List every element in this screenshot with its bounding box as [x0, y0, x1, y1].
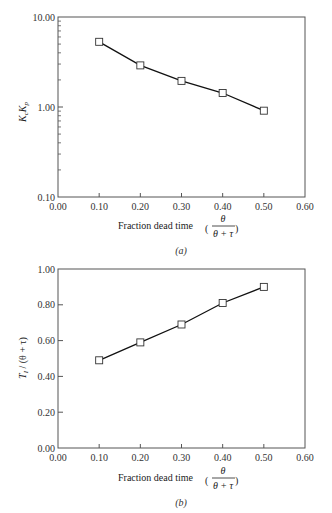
x-axis-label: Fraction dead time [118, 472, 194, 483]
data-point-marker [260, 107, 267, 114]
x-tick-label: 0.40 [214, 452, 232, 463]
svg-text:(: ( [205, 475, 209, 487]
data-series [96, 283, 268, 363]
x-tick-label: 0.50 [255, 452, 273, 463]
x-tick-label: 0.60 [296, 452, 314, 463]
series-line [99, 42, 264, 111]
plot-frame [58, 17, 305, 197]
y-ticks: 0.000.200.400.600.801.00 [38, 264, 64, 454]
x-tick-label: 0.00 [49, 201, 67, 212]
data-point-marker [137, 62, 144, 69]
svg-text:θ: θ [221, 213, 226, 224]
data-point-marker [96, 357, 103, 364]
y-tick-label: 0.60 [38, 335, 56, 346]
x-tick-label: 0.40 [214, 201, 232, 212]
svg-text:θ: θ [221, 465, 226, 476]
svg-text:(: ( [205, 223, 209, 235]
plot-frame [58, 269, 305, 448]
x-tick-label: 0.20 [132, 201, 150, 212]
chart-panel-a: 0.101.0010.00 0.000.100.200.300.400.500.… [17, 12, 314, 258]
chart-panel-b: 0.000.200.400.600.801.00 0.000.100.200.3… [17, 264, 314, 510]
data-point-marker [178, 77, 185, 84]
data-point-marker [137, 339, 144, 346]
y-tick-label: 0.40 [38, 371, 56, 382]
x-ticks: 0.000.100.200.300.400.500.60 [49, 193, 314, 212]
y-tick-label: 1.00 [38, 102, 56, 113]
x-tick-label: 0.10 [90, 201, 108, 212]
x-tick-label: 0.30 [173, 201, 191, 212]
x-tick-label: 0.10 [90, 452, 108, 463]
x-tick-label: 0.00 [49, 452, 67, 463]
x-tick-label: 0.30 [173, 452, 191, 463]
svg-text:θ + τ: θ + τ [213, 228, 234, 239]
y-tick-label: 0.80 [38, 299, 56, 310]
data-point-marker [219, 90, 226, 97]
svg-text:): ) [235, 223, 238, 235]
x-tick-label: 0.20 [132, 452, 150, 463]
svg-text:θ + τ: θ + τ [213, 480, 234, 491]
x-ticks: 0.000.100.200.300.400.500.60 [49, 444, 314, 463]
y-axis-label: KcKp [17, 102, 30, 123]
panel-caption: (a) [175, 245, 187, 257]
x-tick-label: 0.50 [255, 201, 273, 212]
figure: 0.101.0010.00 0.000.100.200.300.400.500.… [0, 0, 332, 513]
data-point-marker [178, 321, 185, 328]
data-point-marker [96, 38, 103, 45]
y-tick-label: 10.00 [33, 12, 56, 23]
svg-text:): ) [235, 475, 238, 487]
fraction-formula: ( θ θ + τ ) [205, 465, 238, 491]
x-axis-label: Fraction dead time [118, 220, 194, 231]
y-tick-label: 0.20 [38, 407, 56, 418]
panel-caption: (b) [175, 497, 187, 509]
data-point-marker [260, 283, 267, 290]
x-tick-label: 0.60 [296, 201, 314, 212]
y-axis-label: TI / (θ + τ) [17, 337, 30, 379]
y-tick-label: 1.00 [38, 264, 56, 275]
data-series [96, 38, 268, 114]
fraction-formula: ( θ θ + τ ) [205, 213, 238, 239]
data-point-marker [219, 300, 226, 307]
